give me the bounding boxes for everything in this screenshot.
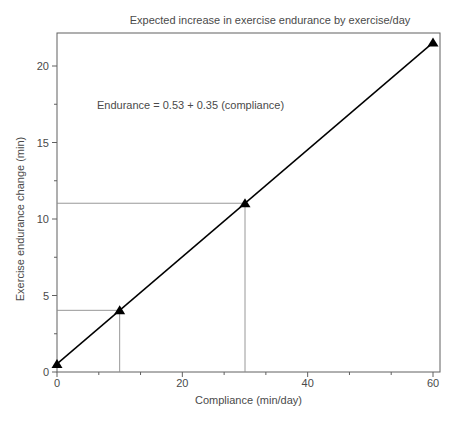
y-axis-tick-label: 10: [37, 213, 49, 225]
regression-equation-label: Endurance = 0.53 + 0.35 (compliance): [97, 99, 284, 111]
y-axis-tick-label: 0: [43, 366, 49, 378]
regression-chart-figure: 020406005101520 Expected increase in exe…: [0, 0, 458, 423]
y-axis-tick-label: 15: [37, 137, 49, 149]
chart-title: Expected increase in exercise endurance …: [90, 14, 450, 26]
x-axis-label: Compliance (min/day): [57, 394, 440, 406]
plot-area: 020406005101520: [0, 0, 458, 423]
y-axis-tick-label: 5: [43, 290, 49, 302]
x-axis-tick-label: 20: [176, 377, 188, 389]
plot-frame: [57, 33, 440, 372]
y-axis-tick-label: 20: [37, 60, 49, 72]
x-axis-tick-label: 0: [54, 377, 60, 389]
x-axis-tick-label: 60: [427, 377, 439, 389]
x-axis-tick-label: 40: [302, 377, 314, 389]
data-point-marker: [428, 38, 439, 47]
y-axis-label: Exercise endurance change (min): [14, 137, 26, 301]
